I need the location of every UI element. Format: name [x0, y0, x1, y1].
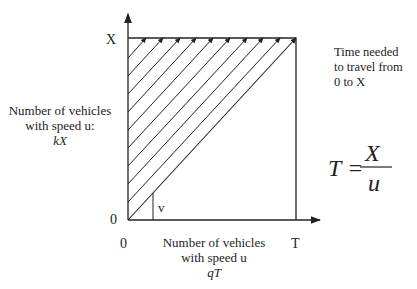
- bottom-label-line1: Number of vehicles: [154, 235, 274, 250]
- x-max-label: T: [291, 236, 300, 251]
- right-note-line1: Time needed: [334, 45, 403, 60]
- formula-numerator: X: [365, 140, 380, 166]
- left-label-line1: Number of vehicles: [2, 103, 118, 118]
- right-note-line2: to travel from: [334, 60, 403, 75]
- left-label: Number of vehicles with speed u: kX: [2, 103, 118, 148]
- bottom-label-line2: with speed u: [154, 250, 274, 265]
- left-label-line3: kX: [2, 133, 118, 148]
- bottom-label-line3: qT: [154, 265, 274, 280]
- y-origin-label: 0: [110, 212, 117, 227]
- left-label-line2: with speed u:: [2, 118, 118, 133]
- trajectory-label: v: [158, 200, 165, 215]
- hatched-trajectories: [128, 38, 280, 202]
- formula-lhs: T =: [328, 155, 363, 181]
- x-origin-label: 0: [120, 236, 127, 251]
- formula-denominator: u: [368, 170, 380, 196]
- y-max-label: X: [106, 32, 116, 47]
- bottom-label: Number of vehicles with speed u qT: [154, 235, 274, 280]
- trajectory-main: [128, 38, 296, 220]
- right-note: Time needed to travel from 0 to X: [334, 45, 403, 90]
- right-note-line3: 0 to X: [334, 75, 403, 90]
